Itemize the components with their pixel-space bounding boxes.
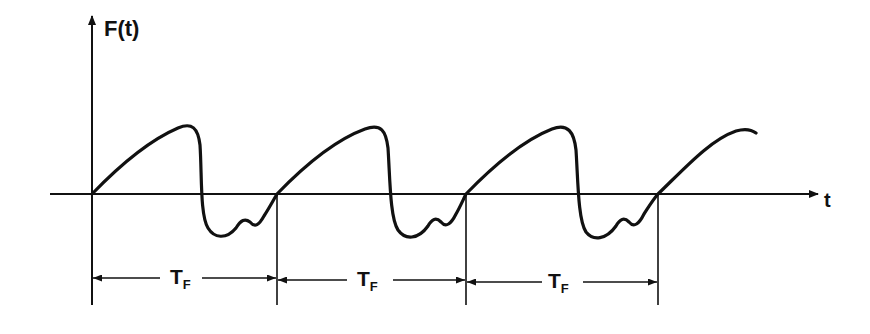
y-axis-label: F(t) — [104, 18, 139, 40]
period-label: TF — [542, 270, 575, 295]
period-label: TF — [351, 268, 384, 293]
x-axis-label: t — [824, 190, 831, 210]
waveform-diagram: F(t) t TF TF TF — [0, 0, 870, 334]
diagram-graphics — [0, 0, 870, 334]
period-label-subscript: F — [183, 277, 191, 292]
period-label-main: T — [170, 265, 183, 288]
period-label-main: T — [548, 269, 561, 292]
period-label-subscript: F — [370, 279, 378, 294]
period-label-main: T — [357, 267, 370, 290]
waveform-curve — [92, 126, 756, 238]
period-label: TF — [164, 266, 197, 291]
period-label-subscript: F — [561, 281, 569, 296]
